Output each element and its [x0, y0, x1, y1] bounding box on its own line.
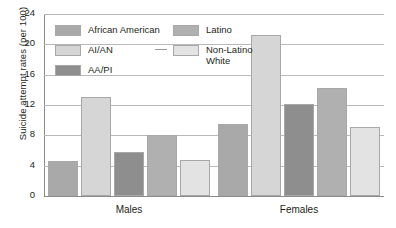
legend-swatch-icon — [173, 45, 199, 56]
legend-swatch-icon — [55, 65, 81, 76]
legend-label: African American — [88, 24, 160, 35]
chart-legend: African AmericanAI/ANAA/PI LatinoNon-Lat… — [55, 24, 295, 80]
bar-males-latino — [147, 135, 177, 196]
y-tick-label-24: 24 — [0, 7, 35, 18]
y-tick-label-12: 12 — [0, 98, 35, 109]
gridline-0 — [44, 196, 384, 197]
bar-females-aa-pi — [284, 104, 314, 196]
bar-males-african-american — [48, 161, 78, 196]
group-label-females: Females — [280, 204, 318, 215]
y-tick-label-16: 16 — [0, 68, 35, 79]
bar-females-latino — [317, 88, 347, 196]
bar-males-non-latino-white — [180, 160, 210, 196]
bar-males-ai-an — [81, 97, 111, 196]
y-tick-label-4: 4 — [0, 159, 35, 170]
group-label-males: Males — [116, 204, 143, 215]
legend-swatch-icon — [55, 25, 81, 36]
bar-females-african-american — [218, 124, 248, 196]
legend-label: Latino — [206, 24, 232, 35]
bar-females-non-latino-white — [350, 127, 380, 196]
legend-label: AI/AN — [88, 44, 113, 55]
legend-dash-mark — [155, 49, 167, 50]
legend-swatch-icon — [173, 25, 199, 36]
legend-swatch-icon — [55, 45, 81, 56]
y-tick-label-8: 8 — [0, 128, 35, 139]
y-tick-label-20: 20 — [0, 37, 35, 48]
bar-males-aa-pi — [114, 152, 144, 196]
legend-label-line2: White — [206, 55, 252, 66]
y-tick-label-0: 0 — [0, 189, 35, 200]
bar-chart-figure: Suicide attempt rates (per 100) 04812162… — [0, 0, 396, 228]
legend-label: Non-LatinoWhite — [206, 44, 252, 66]
legend-label: AA/PI — [88, 64, 112, 75]
